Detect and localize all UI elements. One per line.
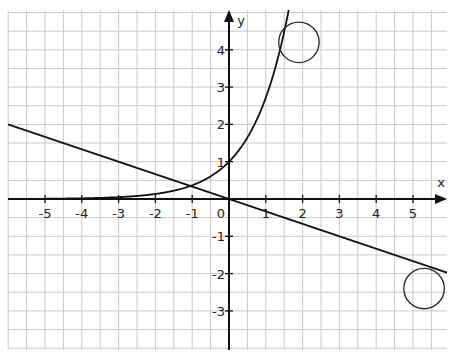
origin-label: 0: [217, 206, 225, 221]
y-tick-label: 2: [217, 117, 225, 132]
y-tick-label: -2: [212, 267, 225, 282]
grid-lines: [8, 10, 447, 350]
y-tick-label: -3: [212, 304, 225, 319]
annotation-circle: [404, 268, 444, 308]
x-tick-label: 1: [262, 206, 270, 221]
x-axis-label: x: [437, 175, 445, 190]
y-tick-label: 1: [217, 155, 225, 170]
y-tick-label: 4: [217, 43, 225, 58]
y-tick-label: -1: [212, 229, 225, 244]
x-tick-label: 4: [372, 206, 380, 221]
x-tick-label: -1: [186, 206, 199, 221]
tick-labels: -5-4-3-2-112345-3-2-112340xy: [39, 13, 446, 319]
x-tick-label: -2: [149, 206, 162, 221]
y-tick-label: 3: [217, 80, 225, 95]
x-tick-label: -5: [39, 206, 52, 221]
x-tick-label: 5: [409, 206, 417, 221]
annotation-circle: [279, 22, 319, 62]
x-tick-label: -3: [112, 206, 125, 221]
x-tick-label: -4: [75, 206, 88, 221]
annotation-circles: [279, 22, 445, 309]
x-tick-label: 2: [298, 206, 306, 221]
x-axis-arrow-icon: [435, 194, 447, 204]
function-graph: -5-4-3-2-112345-3-2-112340xy: [0, 0, 450, 353]
x-tick-label: 3: [335, 206, 343, 221]
y-axis-label: y: [237, 13, 245, 28]
y-axis-arrow-icon: [224, 10, 234, 22]
exponential-curve: [8, 10, 289, 199]
